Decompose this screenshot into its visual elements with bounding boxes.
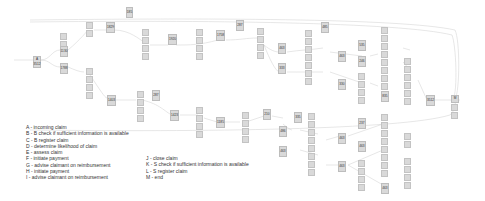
node-count: 185 [127,11,132,14]
node-1788[interactable]: 1788 [60,63,68,74]
node-1423[interactable]: 1423 [170,110,179,121]
node-1185[interactable]: 1185 [216,117,225,128]
node-333[interactable]: 333 [278,63,286,74]
stack-cell [381,154,388,161]
node-1758[interactable]: 1758 [216,30,225,41]
stack-cell [142,29,149,36]
stack-cell [404,74,411,81]
stack-cell [451,112,458,119]
node-count: 1423 [171,114,178,117]
node-330[interactable]: 330 [338,79,346,90]
node-1403[interactable]: 1403 [107,95,116,106]
node-stack [358,73,365,104]
node-count: 835 [382,95,387,98]
stack-cell [381,43,388,50]
stack-cell [257,28,264,35]
node-count: 485 [322,26,327,29]
node-287[interactable]: 287 [236,20,244,31]
node-1920[interactable]: 1920 [168,34,177,45]
node-287-b[interactable]: 287 [152,90,160,101]
node-stack [257,28,264,59]
node-463-a[interactable]: 463 [278,43,286,54]
stack-cell [404,90,411,97]
node-stack [308,113,315,176]
stack-cell [196,29,203,36]
node-count: 246 [359,60,364,63]
stack-cell [142,45,149,52]
node-486[interactable]: 486 [279,126,287,137]
node-463-e[interactable]: 463 [338,161,346,172]
node-463-d[interactable]: 463 [338,133,346,144]
stack-cell [381,170,388,177]
stack-cell [358,73,365,80]
node-stack [86,68,93,99]
node-463-c[interactable]: 463 [279,146,287,157]
node-185[interactable]: 185 [126,7,133,18]
node-count: 1403 [108,99,115,102]
node-835[interactable]: 835 [381,91,389,102]
node-463-b[interactable]: 463 [338,51,346,62]
node-count: 237 [359,122,364,125]
node-stack [305,30,312,85]
stack-cell [381,83,388,90]
node-stack [381,27,388,90]
node-stack [404,133,411,148]
start-node[interactable]: A 3512 [33,56,41,68]
node-count: 463 [279,47,284,50]
node-237[interactable]: 237 [358,118,366,129]
stack-cell [196,53,203,60]
stack-cell [404,174,411,181]
node-335[interactable]: 335 [294,112,302,123]
stack-cell [381,138,388,145]
node-stack [404,158,411,189]
stack-cell [242,112,249,119]
stack-cell [196,131,203,138]
stack-cell [381,114,388,121]
node-count: 287 [237,24,242,27]
node-210[interactable]: 210 [263,109,271,120]
stack-cell [381,162,388,169]
stack-cell [137,99,144,106]
node-count: 463 [339,165,344,168]
stack-cell [381,51,388,58]
stack-cell [381,122,388,129]
stack-cell [404,66,411,73]
stack-cell [381,146,388,153]
node-463-g[interactable]: 463 [381,183,389,194]
legend-left: A - incoming claim B - B check if suffic… [26,124,129,181]
node-count: 210 [264,113,269,116]
stack-cell [381,67,388,74]
node-count: 486 [280,130,285,133]
node-stack [137,91,144,122]
stack-cell [358,184,365,191]
stack-cell [308,137,315,144]
node-stack [142,29,149,60]
legend-item: B - B check if sufficient information is… [26,130,129,136]
stack-cell [86,22,93,29]
stack-cell [305,38,312,45]
node-463-f[interactable]: 463 [358,141,366,152]
stack-cell [305,70,312,77]
stack-cell [305,62,312,69]
stack-cell [381,59,388,66]
stack-cell [308,145,315,152]
stack-cell [404,133,411,140]
node-535[interactable]: 535 [358,40,366,51]
node-stack [404,58,411,105]
node-1829[interactable]: 1829 [106,22,115,33]
legend-item: I - advise claimant on reimbursement [26,174,129,180]
stack-cell [381,130,388,137]
node-246[interactable]: 246 [358,56,366,67]
node-stack [86,22,93,37]
stack-cell [308,121,315,128]
node-count: 463 [382,187,387,190]
end-node[interactable]: M [451,95,459,103]
node-count: 463 [339,137,344,140]
node-3512-end-pre[interactable]: 3512 [426,95,435,106]
node-count: 1920 [169,38,176,41]
stack-cell [86,68,93,75]
stack-cell [242,120,249,127]
node-485[interactable]: 485 [321,22,329,33]
node-1130[interactable]: 1130 [60,46,68,57]
node-count: 3512 [33,63,40,66]
